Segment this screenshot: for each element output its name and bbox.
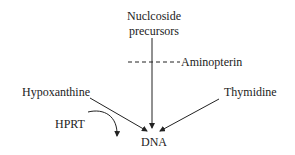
hprt-curved-arrow — [88, 111, 117, 136]
hypoxanthine-to-dna-arrow — [90, 98, 147, 131]
thymidine-label: Thymidine — [224, 85, 277, 99]
nucleoside-precursors-label-line1: Nuclcoside — [127, 9, 181, 23]
nucleoside-precursors-label-line2: precursors — [129, 24, 179, 38]
hprt-label: HPRT — [55, 117, 85, 131]
aminopterin-label: Aminopterin — [181, 55, 242, 69]
hypoxanthine-label: Hypoxanthine — [22, 85, 90, 99]
dna-label: DNA — [141, 135, 167, 149]
thymidine-to-dna-arrow — [160, 99, 219, 131]
